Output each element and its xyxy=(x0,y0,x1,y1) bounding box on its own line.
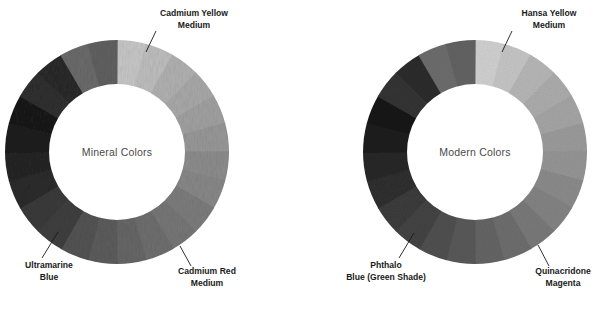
callout-cadmium-yellow-medium: Cadmium Yellow Medium xyxy=(138,8,250,31)
callout-line-2: Medium xyxy=(497,20,601,32)
callout-line-1: Cadmium Red xyxy=(178,266,236,276)
callout-phthalo-blue-green-shade: Phthalo Blue (Green Shade) xyxy=(320,260,452,283)
callout-line-2: Blue (Green Shade) xyxy=(320,272,452,284)
callout-line-1: Quinacridone xyxy=(535,266,590,276)
leader-line-quinacridone-magenta xyxy=(538,245,549,266)
callout-cadmium-red-medium: Cadmium Red Medium xyxy=(157,266,257,289)
callout-quinacridone-magenta: Quinacridone Magenta xyxy=(515,266,611,289)
callout-hansa-yellow-medium: Hansa Yellow Medium xyxy=(497,8,601,31)
callout-line-1: Ultramarine xyxy=(25,260,73,270)
wheel-center-label-right: Modern Colors xyxy=(358,146,592,158)
callout-line-1: Phthalo xyxy=(370,260,402,270)
callout-line-2: Medium xyxy=(138,20,250,32)
callout-line-2: Blue xyxy=(5,272,93,284)
color-wheel-figure: Mineral Colors Modern Colors Cadmium Yel… xyxy=(0,0,615,309)
callout-line-2: Medium xyxy=(157,278,257,290)
callout-line-2: Magenta xyxy=(515,278,611,290)
callout-line-1: Hansa Yellow xyxy=(522,8,577,18)
wheel-center-label-left: Mineral Colors xyxy=(0,146,234,158)
callout-line-1: Cadmium Yellow xyxy=(160,8,228,18)
leader-line-cadmium-red-medium xyxy=(180,246,191,266)
callout-ultramarine-blue: Ultramarine Blue xyxy=(5,260,93,283)
